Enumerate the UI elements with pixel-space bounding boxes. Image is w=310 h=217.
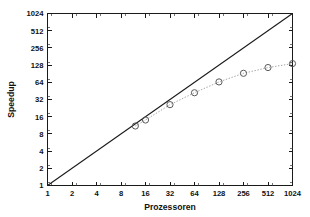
y-axis-title: Speedup xyxy=(6,81,16,117)
x-tick-label: 4 xyxy=(94,189,99,198)
data-point-marker xyxy=(167,102,173,108)
y-tick-label: 1 xyxy=(39,181,44,190)
x-tick-label: 8 xyxy=(119,189,123,198)
x-tick-label: 32 xyxy=(166,189,174,198)
y-tick-label: 512 xyxy=(31,27,44,36)
x-axis-title: Prozessoren xyxy=(144,202,196,212)
x-tick-label: 16 xyxy=(141,189,149,198)
y-tick-label: 1024 xyxy=(27,9,45,18)
x-tick-label: 256 xyxy=(237,189,250,198)
x-tick-label: 128 xyxy=(213,189,226,198)
series-measured xyxy=(135,64,292,126)
y-tick-label: 2 xyxy=(39,164,43,173)
x-tick-label: 64 xyxy=(190,189,199,198)
data-point-marker xyxy=(191,90,197,96)
speedup-plot: 1248163264128256512102412481632641282565… xyxy=(0,0,310,217)
series-ideal xyxy=(48,14,293,186)
x-tick-label: 1 xyxy=(45,189,50,198)
speedup-chart-figure: 1248163264128256512102412481632641282565… xyxy=(0,0,310,217)
data-point-marker xyxy=(142,117,148,123)
x-tick-label: 512 xyxy=(262,189,275,198)
y-tick-label: 4 xyxy=(39,147,44,156)
data-point-marker xyxy=(216,79,222,85)
y-tick-label: 256 xyxy=(31,44,44,53)
y-tick-label: 64 xyxy=(35,78,44,87)
y-tick-label: 128 xyxy=(31,61,44,70)
y-tick-label: 32 xyxy=(35,95,43,104)
y-tick-label: 8 xyxy=(39,130,43,139)
x-tick-label: 2 xyxy=(70,189,74,198)
x-tick-label: 1024 xyxy=(284,189,302,198)
y-tick-label: 16 xyxy=(35,113,43,122)
